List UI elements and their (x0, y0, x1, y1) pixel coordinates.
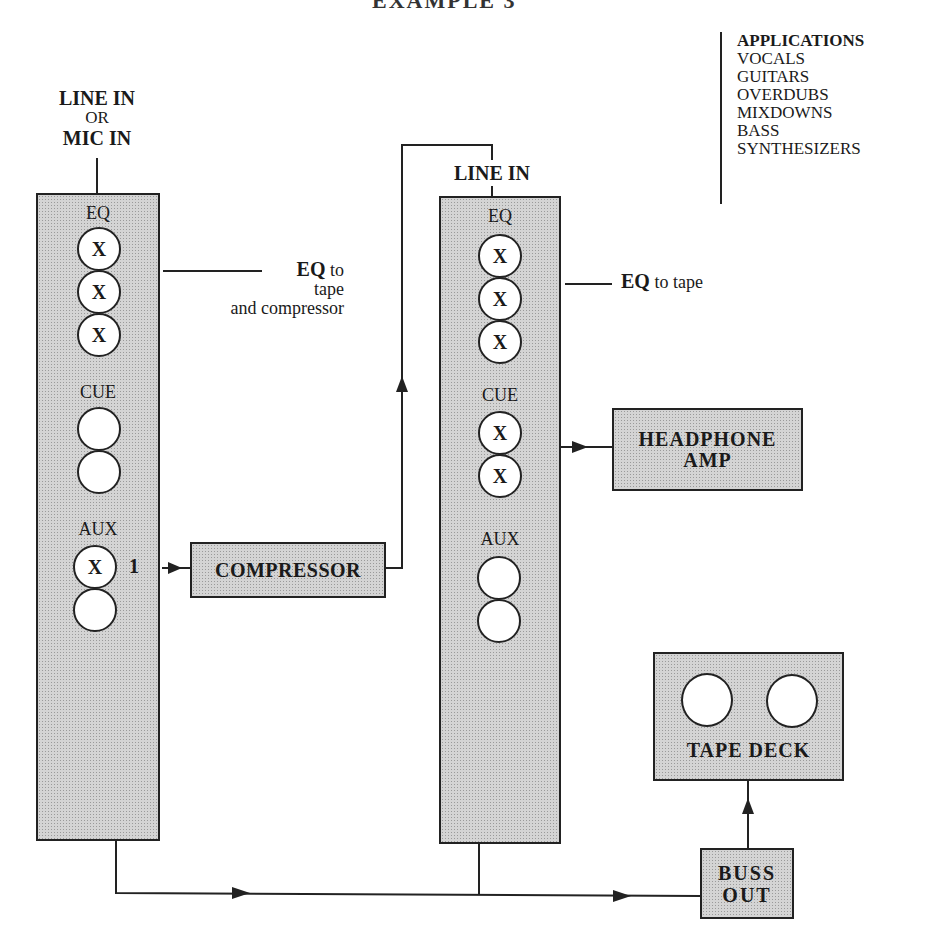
eq-note-text: to (330, 260, 344, 280)
tape-reel-right (766, 674, 818, 728)
buss-out-box: BUSS OUT (700, 848, 794, 919)
compressor-label: COMPRESSOR (215, 559, 361, 582)
cue-label: CUE (440, 385, 560, 406)
eq-note-text: and compressor (222, 299, 344, 318)
channel-strip-1: EQ X X X CUE AUX X 1 (36, 193, 160, 841)
cue-label: CUE (38, 382, 158, 403)
strip1-eq-note: EQ to tape and compressor (222, 260, 344, 318)
eq-label: EQ (440, 206, 560, 227)
eq-knob[interactable]: X (77, 313, 121, 357)
tape-deck-box: TAPE DECK (653, 652, 844, 781)
headphone-amp-label: HEADPHONE (639, 429, 777, 450)
input-label-line: MIC IN (37, 128, 157, 148)
buss-out-label: OUT (722, 884, 771, 906)
headphone-amp-label: AMP (683, 450, 732, 471)
eq-knob[interactable]: X (478, 320, 522, 364)
aux-label: AUX (440, 529, 560, 550)
channel-strip-2: EQ X X X CUE X X AUX (439, 196, 561, 844)
aux-label: AUX (38, 519, 158, 540)
aux-knob[interactable]: X (73, 545, 117, 589)
strip2-eq-note: EQ to tape (621, 270, 703, 293)
eq-knob[interactable]: X (77, 227, 121, 271)
input-label-line: OR (37, 108, 157, 128)
tape-deck-label: TAPE DECK (655, 739, 842, 762)
cue-knob[interactable] (77, 450, 121, 494)
eq-label: EQ (38, 203, 158, 224)
cue-knob[interactable]: X (478, 411, 522, 455)
eq-note-bold: EQ (297, 258, 326, 280)
aux-send-number: 1 (129, 555, 139, 578)
eq-knob[interactable]: X (478, 234, 522, 278)
cue-knob[interactable]: X (478, 454, 522, 498)
aux-knob[interactable] (73, 588, 117, 632)
eq-knob[interactable]: X (478, 277, 522, 321)
strip1-input-label: LINE IN OR MIC IN (37, 88, 157, 148)
eq-note-text: tape (222, 280, 344, 299)
fader[interactable] (76, 650, 116, 815)
strip2-input-label: LINE IN (432, 162, 552, 185)
headphone-amp-box: HEADPHONE AMP (612, 408, 803, 491)
aux-knob[interactable] (477, 599, 521, 643)
eq-note-bold: EQ (621, 270, 650, 292)
cue-knob[interactable] (77, 407, 121, 451)
aux-knob[interactable] (477, 556, 521, 600)
compressor-box: COMPRESSOR (190, 542, 386, 598)
input-label-line: LINE IN (37, 88, 157, 108)
buss-out-label: BUSS (718, 862, 776, 884)
eq-note-text: to tape (654, 272, 702, 292)
tape-reel-left (681, 673, 733, 727)
fader[interactable] (481, 656, 521, 821)
eq-knob[interactable]: X (77, 270, 121, 314)
